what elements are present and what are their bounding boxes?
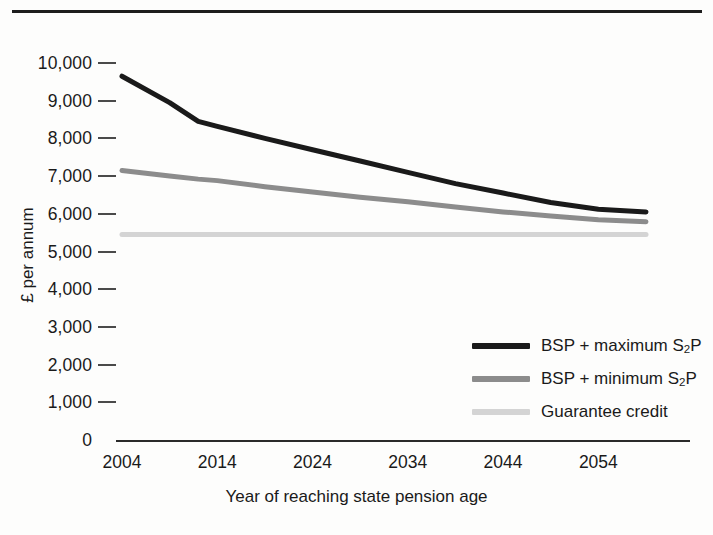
x-axis-line (116, 440, 690, 442)
legend-color-swatch (472, 343, 530, 349)
x-axis-tick-label: 2054 (579, 452, 618, 473)
legend-item: BSP + minimum S2P (472, 369, 702, 389)
legend-label-suffix: P (686, 369, 697, 388)
y-axis-tick-mark (98, 137, 116, 139)
y-axis-tick-label: 8,000 (6, 128, 92, 149)
legend-item: Guarantee credit (472, 402, 702, 422)
x-axis-tick-label: 2004 (103, 452, 142, 473)
legend-label: BSP + maximum S2P (541, 336, 702, 356)
y-axis-tick-label: 0 (6, 430, 92, 451)
series-line (122, 170, 646, 221)
y-axis-title: £ per annum (18, 175, 38, 335)
legend-label-subscript: 2 (684, 343, 690, 355)
y-axis-tick-mark (98, 251, 116, 253)
chart-legend: BSP + maximum S2PBSP + minimum S2PGuaran… (472, 336, 702, 422)
legend-label-text: Guarantee credit (541, 402, 668, 421)
y-axis-tick-mark (98, 100, 116, 102)
legend-label-subscript: 2 (679, 376, 685, 388)
y-axis-tick-label: 9,000 (6, 90, 92, 111)
x-axis-tick-label: 2024 (293, 452, 332, 473)
y-axis-tick-label: 10,000 (6, 53, 92, 74)
y-axis-tick-mark (98, 364, 116, 366)
y-axis-tick-mark (98, 213, 116, 215)
y-axis-tick-mark (98, 401, 116, 403)
legend-item: BSP + maximum S2P (472, 336, 702, 356)
x-axis-title: Year of reaching state pension age (0, 487, 713, 507)
legend-label-text: BSP + minimum S (541, 369, 679, 388)
series-line (122, 76, 646, 212)
legend-label: BSP + minimum S2P (541, 369, 697, 389)
y-axis-tick-mark (98, 326, 116, 328)
x-axis-tick-label: 2014 (198, 452, 237, 473)
x-axis-tick-label: 2044 (484, 452, 523, 473)
y-axis-tick-mark (98, 62, 116, 64)
legend-label-suffix: P (690, 336, 701, 355)
y-axis-tick-mark (98, 288, 116, 290)
legend-label-text: BSP + maximum S (541, 336, 684, 355)
y-axis-tick-mark (98, 175, 116, 177)
x-axis-tick-label: 2034 (388, 452, 427, 473)
y-axis-tick-label: 1,000 (6, 392, 92, 413)
plot-area: 01,0002,0003,0004,0005,0006,0007,0008,00… (0, 0, 713, 535)
legend-label: Guarantee credit (541, 402, 668, 422)
chart-figure: 01,0002,0003,0004,0005,0006,0007,0008,00… (0, 0, 713, 535)
y-axis-tick-label: 2,000 (6, 354, 92, 375)
legend-color-swatch (472, 409, 530, 415)
legend-color-swatch (472, 376, 530, 382)
